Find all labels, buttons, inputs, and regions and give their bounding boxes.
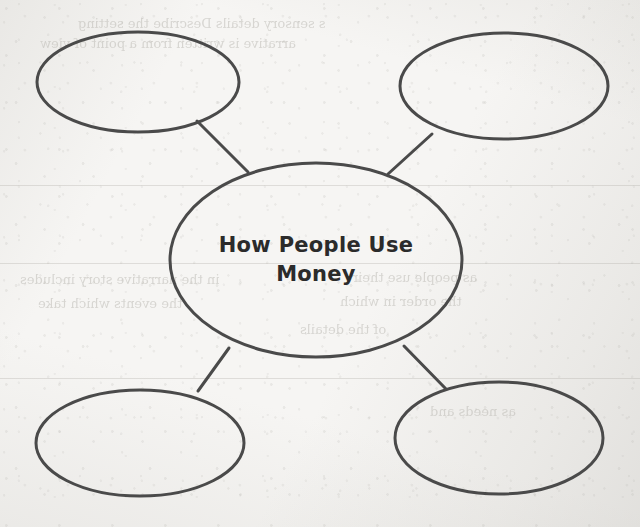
connector-center-to-top-left <box>197 121 248 172</box>
satellite-oval-top-left[interactable] <box>37 32 239 132</box>
satellite-oval-top-right[interactable] <box>400 33 608 139</box>
satellite-oval-bottom-right[interactable] <box>395 382 603 494</box>
center-oval-label-line-2: Money <box>276 262 356 286</box>
center-oval-label-line-1: How People Use <box>219 233 414 257</box>
connector-center-to-bottom-right <box>404 346 446 389</box>
connector-center-to-bottom-left <box>198 348 229 391</box>
center-oval[interactable] <box>170 163 462 357</box>
graphic-organizer-diagram: How People Use Money <box>0 0 640 527</box>
satellite-oval-bottom-left[interactable] <box>36 390 244 496</box>
connector-center-to-top-right <box>388 134 432 174</box>
worksheet-page: s sensory details Describe the setting a… <box>0 0 640 527</box>
